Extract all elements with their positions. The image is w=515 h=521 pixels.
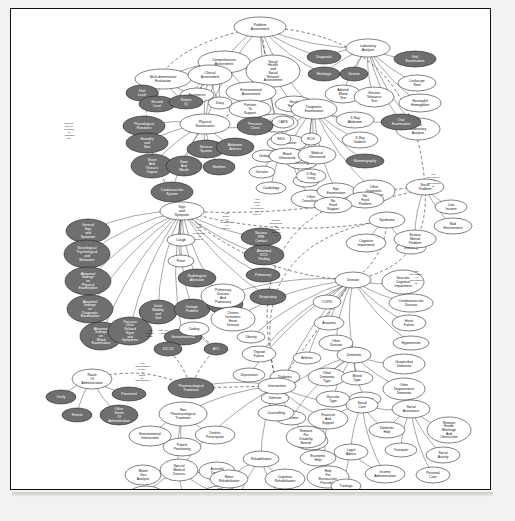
- graph-node-glucose_tolerance_test[interactable]: GlucoseToleranceTest: [354, 87, 394, 107]
- graph-node-pharmacological_treatment[interactable]: PharmacologicalTreatment: [168, 378, 214, 398]
- graph-node-heart_failure[interactable]: HeartFailure: [392, 315, 426, 331]
- graph-node-patient_positioning[interactable]: PatientPositioning: [163, 438, 201, 456]
- graph-node-icd10[interactable]: ICD-10: [154, 342, 182, 356]
- graph-node-motor_rehabilitation[interactable]: MotorRehabilitation: [210, 470, 248, 488]
- graph-node-request_for_disability_benefit[interactable]: RequestForDisabilityBenefit: [286, 426, 326, 448]
- graph-node-atc[interactable]: ATC: [204, 343, 228, 355]
- graph-node-abdomen_arteries[interactable]: AbdomenArteries: [216, 138, 254, 156]
- graph-node-sign_and_symptom[interactable]: SignandSymptom: [160, 202, 204, 220]
- graph-node-copd[interactable]: COPD: [313, 295, 341, 309]
- graph-node-leukocyte_rate[interactable]: LeukocyteRate: [398, 75, 436, 91]
- ontology-graph[interactable]: ProblemAssessmentComprehensiveAssessment…: [11, 9, 491, 490]
- graph-node-no_fund_support[interactable]: NoFundSupport: [314, 197, 352, 213]
- graph-node-transport[interactable]: Transport: [385, 443, 417, 457]
- graph-node-other_route_of_administration[interactable]: OtherRouteOfAdministration: [100, 405, 138, 425]
- graph-node-cough[interactable]: Cough: [167, 234, 195, 246]
- graph-node-domestic_help[interactable]: DomesticHelp: [369, 422, 405, 438]
- graph-node-dementia[interactable]: Dementia: [337, 347, 371, 363]
- graph-node-xray_abdomen[interactable]: X-RayAbdomen: [336, 112, 374, 128]
- graph-node-blood_transfusion[interactable]: BloodTransfusion: [128, 486, 164, 490]
- graph-node-hypotension[interactable]: Hypotension: [393, 336, 429, 350]
- graph-node-diagnostic_examination[interactable]: DiagnosticExamination: [291, 99, 337, 119]
- graph-node-cognitive_rehabilitation[interactable]: CognitiveRehabilitation: [265, 469, 305, 489]
- graph-node-social_care[interactable]: SocialCare: [346, 397, 378, 413]
- graph-node-serious_mental_problem[interactable]: SeriousMentalProblem: [394, 230, 436, 248]
- graph-node-respiratory_sign[interactable]: Respiratory: [250, 289, 286, 305]
- graph-node-syndrome[interactable]: Syndrome: [369, 212, 405, 228]
- graph-node-genetic[interactable]: Genetic: [340, 67, 368, 81]
- graph-node-arthritis[interactable]: Arthritis: [293, 352, 321, 364]
- graph-node-humidity_and_skin[interactable]: HumidityandSkin: [126, 133, 168, 153]
- graph-node-mammography[interactable]: Mammography: [346, 154, 384, 168]
- graph-node-robots_iq[interactable]: RobotsIQ: [169, 95, 203, 109]
- graph-node-other_degenerative_dementia[interactable]: OtherDegenerativeDementia: [383, 378, 425, 400]
- graph-node-pressure_chest[interactable]: PressureChest: [237, 117, 273, 135]
- graph-node-orally[interactable]: Orally: [46, 390, 76, 404]
- graph-node-neutrophil_hemoglobin[interactable]: NeutrophilHemoglobin: [399, 94, 441, 112]
- graph-node-financial_and_support[interactable]: FinancialAndSupport: [308, 409, 348, 429]
- graph-node-low_income[interactable]: LowIncome: [435, 200, 467, 214]
- graph-node-personal_care[interactable]: PersonalCare: [416, 467, 450, 483]
- graph-node-legal_advice[interactable]: LegalAdvice: [334, 444, 368, 460]
- graph-node-vascular_dementia[interactable]: VascularType: [316, 391, 350, 407]
- graph-node-ekg[interactable]: EKG: [271, 133, 291, 145]
- graph-node-general_sign_and_symptom[interactable]: GeneralSignandSymptom: [66, 219, 110, 243]
- graph-node-route_of_administration[interactable]: RouteOfAdministration: [72, 369, 112, 389]
- graph-node-pulmonary_sign[interactable]: Pulmonary: [246, 268, 280, 282]
- graph-node-nose_and_mouth[interactable]: NoseAndMouth: [166, 156, 202, 176]
- graph-node-abnormal_findings_physical_examination[interactable]: AbnormalfindingsonPhysicalExamination: [65, 267, 111, 295]
- graph-node-cardiovascular_system[interactable]: CardiovascularSystem: [151, 182, 193, 202]
- graph-node-thyroid_failure[interactable]: ThyroidFailure: [242, 346, 276, 362]
- graph-node-obesity[interactable]: Obesity: [237, 331, 265, 343]
- graph-node-skeleton[interactable]: Skeleton: [203, 159, 235, 175]
- graph-node-xray_lung[interactable]: X-RayLung: [296, 169, 326, 183]
- graph-node-chronic_ischaemic_heart_disease[interactable]: ChronicIschaemicHeartDisease: [211, 307, 255, 331]
- graph-node-non_pharmacological_treatment[interactable]: NonPharmacologicalTreatment: [159, 402, 207, 426]
- graph-node-oral_examination[interactable]: OralExamination: [381, 114, 421, 130]
- graph-node-dietetic_prescription[interactable]: DieteticPrescription: [195, 426, 235, 444]
- graph-node-histologic[interactable]: Histologic: [308, 67, 340, 81]
- graph-node-xray_diabetic[interactable]: X-RayDiabetic: [342, 132, 378, 148]
- graph-node-other_dementia_type[interactable]: OtherDementiaType: [308, 368, 346, 386]
- graph-node-disease[interactable]: Disease: [335, 272, 371, 288]
- graph-node-laboratory_analysis[interactable]: LaboratoryAnalysis: [346, 39, 390, 57]
- graph-node-anaemia[interactable]: Anaemia: [314, 316, 344, 330]
- graph-node-abnormal_ecg_finding[interactable]: AbnormalECGFinding: [244, 245, 284, 265]
- graph-node-coding[interactable]: Coding: [179, 322, 209, 336]
- graph-node-cerebrovascular_disease[interactable]: CerebrovascularDisease: [389, 294, 433, 312]
- node-layer[interactable]: ProblemAssessmentComprehensiveAssessment…: [46, 17, 472, 490]
- graph-node-blood_gas_analysis[interactable]: BloodGasAnalysis: [125, 465, 161, 485]
- graph-node-problem_assessment[interactable]: ProblemAssessment: [234, 17, 286, 37]
- graph-node-personal_hygiene_obstruction[interactable]: RemoveHurdleBlockageAndObstruction: [427, 417, 471, 443]
- graph-node-social_assistance[interactable]: SocialAssistance: [392, 400, 430, 418]
- graph-node-diagnostic_node[interactable]: Diagnostic: [307, 50, 341, 64]
- graph-node-cardiology[interactable]: Cardiology: [256, 182, 286, 194]
- graph-node-neurological_psychological_behaviour[interactable]: NeurologicalPsychologicalandBehaviour: [64, 240, 110, 268]
- graph-node-counselling[interactable]: Counselling: [258, 405, 294, 421]
- graph-node-pulmonary_disease[interactable]: PulmonaryDiseaseAndPulmonary: [201, 284, 245, 308]
- graph-node-ecg[interactable]: ECG: [301, 133, 321, 145]
- graph-node-fever[interactable]: Fever: [168, 255, 194, 267]
- graph-node-medical_ultrasound[interactable]: MedicalUltrasound: [298, 146, 336, 164]
- graph-node-diary[interactable]: Diary: [208, 97, 232, 109]
- graph-node-radiological_alteration[interactable]: RadiologicalAlteration: [178, 269, 216, 287]
- graph-node-bad_environment[interactable]: BadEnvironment: [434, 218, 472, 234]
- graph-node-unspecified_dementia[interactable]: UnspecifiedDementia: [383, 354, 425, 374]
- graph-node-mixed_type[interactable]: MixedType: [341, 371, 373, 385]
- graph-node-rehabilitation[interactable]: Rehabilitation: [243, 451, 279, 467]
- graph-node-abnormal_findings_diagnostic[interactable]: AbnormalfindingsonDiagnosticExamination: [67, 295, 113, 323]
- graph-node-parenteral[interactable]: Parenteral: [112, 387, 146, 401]
- graph-node-geriatric[interactable]: Geriatric: [249, 166, 275, 178]
- graph-node-environmental_assessment[interactable]: EnvironmentalAssessment: [226, 82, 276, 102]
- graph-node-clinical_assessment[interactable]: ClinicalAssessment: [188, 65, 232, 85]
- graph-node-enteral[interactable]: Enteral: [62, 408, 92, 422]
- graph-node-vital_examination[interactable]: VitalExamination: [394, 51, 436, 67]
- graph-node-depression[interactable]: Depression: [233, 368, 265, 382]
- graph-node-cognitive_impairment[interactable]: CognitiveImpairment: [346, 234, 386, 252]
- graph-node-economic_help[interactable]: EconomicHelp: [300, 450, 336, 466]
- graph-node-intervention[interactable]: Intervention: [258, 378, 296, 394]
- graph-node-cars[interactable]: CARS: [272, 116, 294, 128]
- graph-node-physical_examination[interactable]: PhysicalExamination: [180, 114, 230, 134]
- graph-node-income_administration_2[interactable]: IncomeAdministration: [365, 465, 405, 483]
- graph-node-social_activity[interactable]: SocialActivity: [426, 447, 460, 463]
